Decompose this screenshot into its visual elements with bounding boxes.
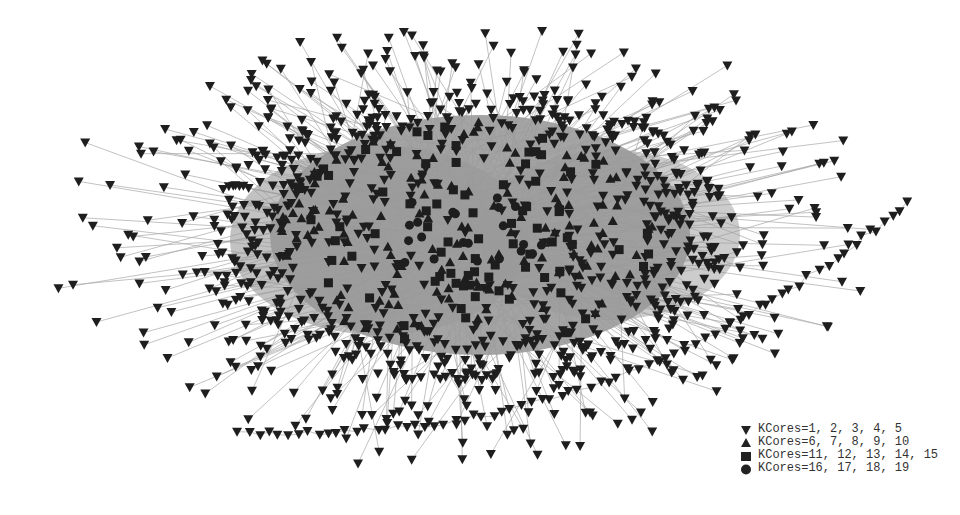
legend-item-kcores-16-19: KCores=16, 17, 18, 19 <box>740 462 938 475</box>
triangle-up-icon <box>740 437 752 449</box>
square-icon <box>740 450 752 462</box>
triangle-down-icon <box>740 424 752 436</box>
legend: KCores=1, 2, 3, 4, 5 KCores=6, 7, 8, 9, … <box>740 423 938 475</box>
legend-label: KCores=16, 17, 18, 19 <box>758 462 909 475</box>
circle-icon <box>740 463 752 475</box>
